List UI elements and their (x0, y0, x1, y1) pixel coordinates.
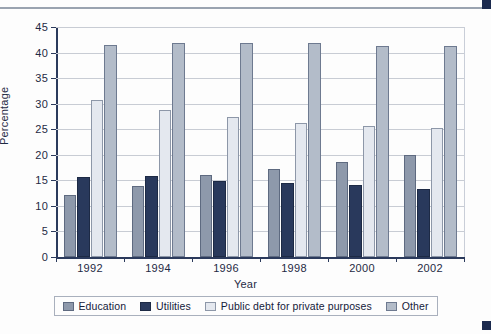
bar-group-1996 (200, 27, 253, 257)
bar (417, 189, 430, 257)
bar-group-2002 (404, 27, 457, 257)
bar (404, 155, 417, 257)
y-tick-label: 30 (35, 98, 48, 110)
y-tick-mark (51, 53, 56, 54)
legend-item-0[interactable]: Education (63, 300, 127, 312)
bar (308, 43, 321, 257)
bar (349, 185, 362, 257)
bar-group-2000 (336, 27, 389, 257)
plot-area: 051015202530354045 (56, 27, 464, 257)
y-tick-mark (51, 231, 56, 232)
bar-group-1998 (268, 27, 321, 257)
y-tick-label: 35 (35, 72, 48, 84)
chart-legend: EducationUtilitiesPublic debt for privat… (54, 296, 438, 316)
y-axis-label: Percentage (0, 87, 10, 145)
y-tick-label: 5 (42, 225, 48, 237)
bar (227, 117, 240, 257)
x-axis-label: Year (0, 278, 491, 290)
y-tick-label: 0 (42, 251, 48, 263)
x-tick-label-2000: 2000 (349, 262, 375, 274)
bar (145, 176, 158, 257)
legend-item-2[interactable]: Public debt for private purposes (205, 300, 372, 312)
y-tick-mark (51, 104, 56, 105)
x-tick-mark (124, 257, 125, 262)
x-tick-label-1994: 1994 (145, 262, 171, 274)
y-tick-label: 15 (35, 174, 48, 186)
y-tick-label: 10 (35, 200, 48, 212)
bar-group-1994 (132, 27, 185, 257)
bar (444, 46, 457, 257)
bar (376, 46, 389, 257)
x-tick-mark (192, 257, 193, 262)
y-tick-mark (51, 206, 56, 207)
y-tick-label: 40 (35, 47, 48, 59)
bar (295, 123, 308, 257)
y-tick-mark (51, 27, 56, 28)
y-tick-mark (51, 129, 56, 130)
legend-label: Utilities (156, 300, 191, 312)
bar (281, 183, 294, 257)
x-tick-label-1996: 1996 (213, 262, 239, 274)
bar (200, 175, 213, 257)
x-tick-label-2002: 2002 (417, 262, 443, 274)
legend-swatch-icon (63, 302, 74, 311)
x-tick-label-1998: 1998 (281, 262, 307, 274)
bar (132, 186, 145, 257)
bar (91, 100, 104, 257)
x-tick-mark (396, 257, 397, 262)
x-tick-mark (56, 257, 57, 262)
bar (268, 169, 281, 257)
corner-mark-bottom-right (482, 321, 491, 330)
y-tick-mark (51, 180, 56, 181)
y-tick-mark (51, 78, 56, 79)
corner-mark-top-right (482, 0, 491, 9)
plot-right-edge (464, 27, 465, 258)
legend-label: Education (79, 300, 127, 312)
x-tick-mark (464, 257, 465, 262)
bar (104, 45, 117, 257)
bar (336, 162, 349, 257)
x-tick-mark (328, 257, 329, 262)
bar (172, 43, 185, 257)
y-tick-label: 25 (35, 123, 48, 135)
y-tick-mark (51, 155, 56, 156)
bar (77, 177, 90, 257)
bar (240, 43, 253, 257)
bar-group-1992 (64, 27, 117, 257)
bar (64, 195, 77, 257)
legend-swatch-icon (140, 302, 151, 311)
x-tick-mark (260, 257, 261, 262)
legend-swatch-icon (386, 302, 397, 311)
legend-item-3[interactable]: Other (386, 300, 429, 312)
bar (213, 181, 226, 257)
x-tick-label-1992: 1992 (77, 262, 103, 274)
legend-item-1[interactable]: Utilities (140, 300, 191, 312)
legend-swatch-icon (205, 302, 216, 311)
legend-label: Other (402, 300, 429, 312)
bar (363, 126, 376, 257)
bar (159, 110, 172, 257)
y-tick-label: 45 (35, 21, 48, 33)
bar (431, 128, 444, 257)
legend-label: Public debt for private purposes (221, 300, 372, 312)
y-tick-label: 20 (35, 149, 48, 161)
top-divider-rule (0, 7, 491, 9)
chart-figure: 051015202530354045 199219941996199820002… (0, 0, 491, 334)
